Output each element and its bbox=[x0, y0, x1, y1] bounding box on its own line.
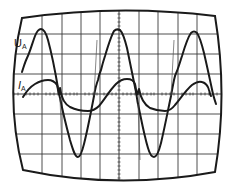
current-trace bbox=[23, 79, 211, 111]
voltage-label: UA bbox=[14, 37, 27, 50]
oscilloscope-screen: UA IA bbox=[0, 0, 232, 190]
voltage-retrace bbox=[60, 40, 174, 160]
current-label: IA bbox=[18, 79, 26, 92]
axis-ticks bbox=[10, 14, 217, 178]
oscilloscope-figure: UA IA bbox=[0, 0, 232, 190]
